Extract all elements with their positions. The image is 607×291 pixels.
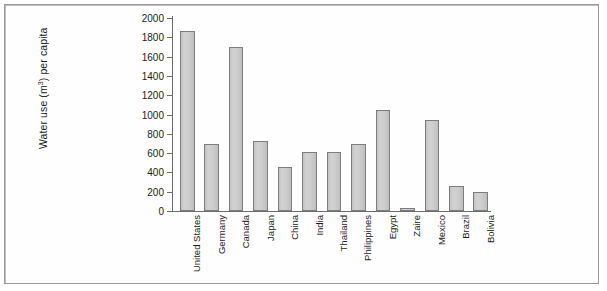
y-axis-title-post: ) per capita [37,27,49,81]
figure-canvas: Water use (m3) per capita 02004006008001… [0,0,607,291]
x-axis-tick-label: Germany [216,215,227,254]
y-axis-title: Water use (m3) per capita [37,0,50,183]
x-axis-line [172,211,491,212]
x-axis-tick-label: United States [191,215,202,272]
y-axis-tick [167,153,172,154]
x-axis-tick-label: Brazil [460,215,471,239]
y-axis-tick [167,18,172,19]
x-axis-tick-label: India [314,215,325,236]
x-axis-tick-label: Japan [265,215,276,241]
x-axis-tick-label: Thailand [338,215,349,251]
y-axis-tick [167,95,172,96]
y-axis-tick-label: 600 [147,148,164,159]
y-axis-tick-label: 2000 [142,13,164,24]
y-axis-line [172,16,173,211]
y-axis-tick-label: 200 [147,186,164,197]
x-axis-tick-label: Bolivia [485,215,496,243]
y-axis-tick-label: 1400 [142,70,164,81]
bar [204,144,219,211]
y-axis-tick-label: 1000 [142,109,164,120]
y-axis-tick [167,134,172,135]
bar [473,192,488,211]
y-axis-tick [167,57,172,58]
bar [253,141,268,211]
y-axis-tick-label: 800 [147,128,164,139]
y-axis-tick [167,192,172,193]
bar [400,208,415,211]
bar [302,152,317,211]
bar [449,186,464,211]
y-axis-tick-label: 1800 [142,32,164,43]
x-axis-tick-label: Egypt [387,215,398,239]
x-axis-tick-label: Canada [240,215,251,248]
x-axis-tick-label: China [289,215,300,240]
y-axis-tick-label: 1600 [142,51,164,62]
y-axis-title-superscript: 3 [37,81,44,85]
y-axis-title-pre: Water use (m [37,85,49,149]
y-axis-tick [167,76,172,77]
y-axis-tick [167,172,172,173]
plot-area: 0200400600800100012001400160018002000 Un… [172,18,490,211]
bar [425,120,440,211]
bar [229,47,244,211]
bar [180,31,195,211]
bar [351,144,366,211]
y-axis-tick [167,211,172,212]
bar [327,152,342,211]
y-axis-tick-label: 400 [147,167,164,178]
bar [376,110,391,211]
y-axis-tick-label: 1200 [142,90,164,101]
x-axis-tick-label: Philippines [362,215,373,261]
bar [278,167,293,211]
x-axis-tick-label: Zaire [411,215,422,237]
y-axis-tick [167,37,172,38]
y-axis-tick [167,115,172,116]
x-axis-tick-label: Mexico [436,215,447,245]
y-axis-tick-label: 0 [158,206,164,217]
